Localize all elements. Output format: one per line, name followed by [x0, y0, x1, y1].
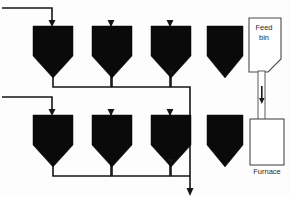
pipe-inlet-row1 [2, 8, 52, 24]
process-flow-diagram: Feed bin Furnace [0, 0, 290, 198]
hopper-row-1 [33, 26, 243, 78]
furnace-label: Furnace [253, 167, 281, 176]
hopper-r2-c2 [92, 115, 132, 167]
feed-bin-label-line2: bin [259, 33, 269, 42]
hopper-r1-c1 [33, 26, 73, 78]
hopper-r2-c4 [207, 115, 243, 167]
arrow-exit-bottom-icon [187, 188, 194, 196]
hopper-row-2 [33, 115, 243, 167]
hopper-r1-c4 [207, 26, 243, 78]
furnace-vessel [250, 119, 284, 165]
pipe-inlet-row2 [2, 97, 52, 113]
flow-diagram-canvas: Feed bin Furnace [0, 0, 290, 198]
hopper-r2-c1 [33, 115, 73, 167]
feed-bin-label-line1: Feed [255, 23, 272, 32]
hopper-r1-c2 [92, 26, 132, 78]
